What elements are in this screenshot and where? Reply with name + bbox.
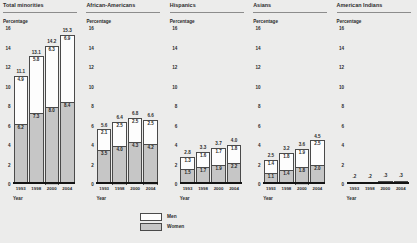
bar-column[interactable]: 15.36.98.4 bbox=[60, 28, 76, 184]
bar-segment-men[interactable]: 5.8 bbox=[29, 56, 44, 113]
x-axis-title: Year bbox=[263, 196, 273, 201]
y-axis-title: Percentage bbox=[253, 19, 278, 24]
panel-asians: AsiansPercentage16141210864202.51.41.13.… bbox=[250, 0, 333, 205]
bar-column[interactable]: .2 bbox=[362, 28, 378, 184]
plot-area: 161412108642011.14.96.213.15.87.314.26.3… bbox=[13, 28, 75, 184]
bar-segment-women[interactable]: 4.0 bbox=[112, 146, 127, 185]
x-axis-tick: 1998 bbox=[279, 186, 295, 191]
bar-segment-men[interactable]: 1.4 bbox=[264, 160, 279, 174]
bar-segment-women[interactable]: 2.0 bbox=[310, 165, 325, 185]
bar-segment-men[interactable]: 1.8 bbox=[227, 145, 242, 163]
plot-area: 1614121086420.2.2.3.3 bbox=[347, 28, 409, 184]
stacked-bar[interactable]: 4.52.52.0 bbox=[310, 140, 325, 184]
bar-segment-men[interactable]: 6.9 bbox=[60, 35, 75, 102]
bar-segment-men[interactable]: 2.5 bbox=[128, 118, 143, 142]
stacked-bar[interactable]: 14.26.38.0 bbox=[45, 46, 60, 184]
y-axis-tick: 2 bbox=[91, 162, 94, 167]
bar-column[interactable]: 4.01.82.2 bbox=[226, 28, 242, 184]
bar-segment-men[interactable]: 2.5 bbox=[143, 120, 158, 144]
stacked-bar[interactable]: 4.01.82.2 bbox=[227, 145, 242, 184]
bar-column[interactable]: .2 bbox=[347, 28, 363, 184]
bar-segment-men[interactable]: 1.7 bbox=[211, 148, 226, 165]
bar-segment-men[interactable]: 2.5 bbox=[112, 122, 127, 146]
bar-column[interactable]: 6.82.54.3 bbox=[127, 28, 143, 184]
bar-segment-men[interactable]: 1.3 bbox=[180, 157, 195, 170]
bar-segment-women[interactable]: 7.3 bbox=[29, 113, 44, 184]
stacked-bar[interactable]: 15.36.98.4 bbox=[60, 35, 75, 184]
bar-segment-women[interactable]: 8.0 bbox=[45, 107, 60, 185]
bar-segment-label: 2.5 bbox=[144, 122, 157, 127]
y-axis-tick: 2 bbox=[8, 162, 11, 167]
bar-column[interactable]: .3 bbox=[378, 28, 394, 184]
bar-column[interactable]: 3.71.71.9 bbox=[211, 28, 227, 184]
bar-segment-men[interactable]: 2.5 bbox=[310, 140, 325, 164]
stacked-bar[interactable]: 6.82.54.3 bbox=[128, 118, 143, 184]
bar-segment-label: 1.9 bbox=[212, 167, 225, 172]
bar-group: .2.2.3.3 bbox=[347, 28, 409, 184]
bar-segment-label: 3.5 bbox=[98, 152, 111, 157]
y-axis-tick: 0 bbox=[175, 182, 178, 187]
stacked-bar[interactable]: 11.14.96.2 bbox=[14, 76, 29, 184]
stacked-bar[interactable]: 3.71.71.9 bbox=[211, 148, 226, 184]
bar-column[interactable]: 5.62.13.5 bbox=[96, 28, 112, 184]
stacked-bar[interactable]: 3.31.61.7 bbox=[196, 152, 211, 184]
bar-segment-men[interactable]: 1.9 bbox=[295, 149, 310, 168]
y-axis-tick: 12 bbox=[172, 65, 177, 70]
chart-legend: Men Women bbox=[140, 212, 230, 232]
bar-segment-label: 2.5 bbox=[113, 124, 126, 129]
bar-segment-men[interactable]: 6.3 bbox=[45, 46, 60, 107]
bar-segment-women[interactable]: 3.5 bbox=[97, 150, 112, 184]
bar-segment-men[interactable]: 1.8 bbox=[279, 153, 294, 171]
bar-segment-women[interactable]: 8.4 bbox=[60, 102, 75, 184]
bar-column[interactable]: 2.51.41.1 bbox=[263, 28, 279, 184]
bar-segment-label: 2.5 bbox=[129, 120, 142, 125]
bar-column[interactable]: 6.42.54.0 bbox=[112, 28, 128, 184]
stacked-bar[interactable]: 2.81.31.5 bbox=[180, 157, 195, 184]
bar-group: 5.62.13.56.42.54.06.82.54.36.62.54.2 bbox=[96, 28, 158, 184]
stacked-bar[interactable]: 3.21.81.4 bbox=[279, 153, 294, 184]
bar-column[interactable]: 4.52.52.0 bbox=[310, 28, 326, 184]
bar-segment-women[interactable]: 4.2 bbox=[143, 144, 158, 185]
bar-column[interactable]: 13.15.87.3 bbox=[29, 28, 45, 184]
bar-column[interactable]: 3.31.61.7 bbox=[195, 28, 211, 184]
plot-area: 16141210864205.62.13.56.42.54.06.82.54.3… bbox=[96, 28, 158, 184]
bar-segment-label: 1.8 bbox=[280, 155, 293, 160]
y-axis-tick: 0 bbox=[258, 182, 261, 187]
stacked-bar[interactable]: 3.61.91.8 bbox=[295, 149, 310, 184]
stacked-bar[interactable]: 2.51.41.1 bbox=[264, 160, 279, 184]
stacked-bar[interactable]: 6.62.54.2 bbox=[143, 120, 158, 184]
stacked-bar[interactable]: 6.42.54.0 bbox=[112, 122, 127, 184]
bar-segment-label: 8.0 bbox=[46, 109, 59, 114]
bar-segment-label: 6.2 bbox=[15, 126, 28, 131]
bar-segment-label: 1.3 bbox=[181, 159, 194, 164]
y-axis-tick: 4 bbox=[8, 143, 11, 148]
bar-total-label: 13.1 bbox=[27, 51, 46, 56]
bar-column[interactable]: 3.21.81.4 bbox=[279, 28, 295, 184]
bar-segment-women[interactable]: 1.9 bbox=[211, 165, 226, 184]
bar-segment-men[interactable]: 2.1 bbox=[97, 129, 112, 149]
stacked-bar[interactable]: 13.15.87.3 bbox=[29, 56, 44, 184]
bar-segment-women[interactable]: 6.2 bbox=[14, 124, 29, 184]
x-axis-title: Year bbox=[347, 196, 357, 201]
legend-swatch-men bbox=[140, 213, 162, 221]
x-axis-baseline bbox=[13, 182, 75, 184]
bar-column[interactable]: 3.61.91.8 bbox=[294, 28, 310, 184]
panel-title-rule bbox=[253, 12, 327, 13]
bar-segment-women[interactable]: 4.3 bbox=[128, 142, 143, 184]
bar-column[interactable]: 14.26.38.0 bbox=[44, 28, 60, 184]
bar-segment-label: 4.9 bbox=[15, 78, 28, 83]
y-axis-tick: 14 bbox=[339, 45, 344, 50]
bar-segment-label: 1.6 bbox=[197, 154, 210, 159]
x-axis-tick: 1998 bbox=[29, 186, 45, 191]
bar-segment-men[interactable]: 1.6 bbox=[196, 152, 211, 168]
bar-total-label: 15.3 bbox=[58, 29, 77, 34]
legend-label-men: Men bbox=[167, 214, 177, 219]
bar-total-label: 2.8 bbox=[178, 151, 197, 156]
stacked-bar[interactable]: 5.62.13.5 bbox=[97, 129, 112, 184]
bar-segment-women[interactable]: 2.2 bbox=[227, 163, 242, 184]
bar-column[interactable]: .3 bbox=[393, 28, 409, 184]
bar-column[interactable]: 2.81.31.5 bbox=[180, 28, 196, 184]
y-axis-tick: 10 bbox=[5, 84, 10, 89]
bar-column[interactable]: 6.62.54.2 bbox=[143, 28, 159, 184]
bar-segment-men[interactable]: 4.9 bbox=[14, 76, 29, 124]
